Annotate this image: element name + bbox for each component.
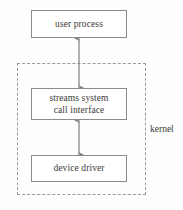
node-device-driver-line-0: device driver [32, 162, 126, 175]
node-user-process-label: user process [32, 18, 126, 31]
node-streams-system-call-interface: streams system call interface [31, 88, 127, 120]
kernel-label: kernel [150, 124, 174, 135]
node-user-process: user process [31, 10, 127, 38]
node-streams-label: streams system call interface [32, 92, 126, 117]
arrow-user-process-to-streams [72, 31, 86, 95]
node-device-driver: device driver [31, 155, 127, 182]
node-streams-line-0: streams system [32, 92, 126, 105]
node-streams-line-1: call interface [32, 104, 126, 117]
diagram-canvas: kernel user process streams sy [0, 0, 183, 210]
node-device-driver-label: device driver [32, 162, 126, 175]
node-user-process-line-0: user process [32, 18, 126, 31]
